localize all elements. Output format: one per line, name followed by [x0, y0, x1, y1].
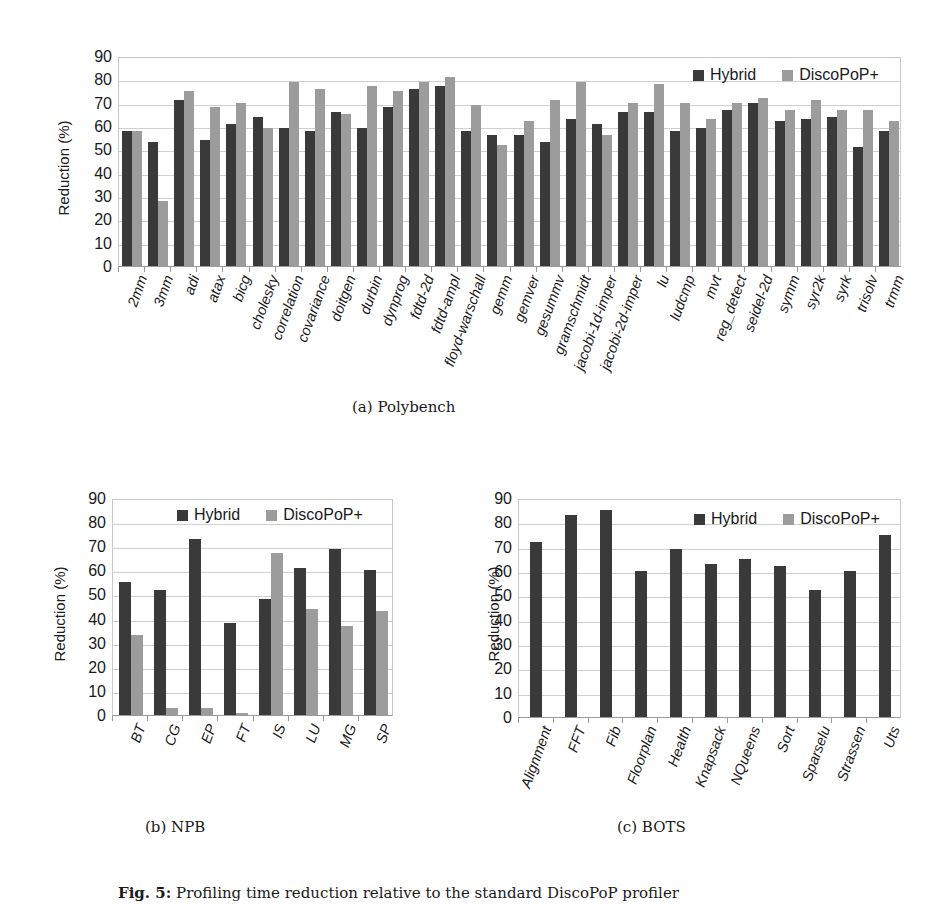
bar-hybrid-mg: [329, 549, 341, 715]
bar-hybrid-lu: [644, 112, 654, 266]
x-tick-label: EP: [198, 722, 220, 746]
bar-hybrid-fdtd-2d: [409, 89, 419, 266]
bar-discopop-durbin: [367, 86, 377, 266]
gridline: [113, 548, 392, 549]
bar-discopop-gramschmidt: [576, 82, 586, 266]
y-tick-label: 60: [82, 119, 112, 135]
bar-hybrid-lu: [294, 568, 306, 715]
x-tick-label: syrk: [830, 273, 854, 303]
legend-swatch-discopop: [783, 514, 794, 525]
bar-discopop-mg: [341, 626, 353, 715]
y-tick-label: 0: [482, 710, 512, 726]
bar-hybrid-health: [670, 549, 682, 717]
x-tick-mark: [849, 267, 850, 272]
legend-swatch-hybrid: [694, 514, 705, 525]
bar-discopop-adi: [184, 91, 194, 266]
bar-hybrid-fdtd-ampl: [435, 86, 445, 266]
bar-hybrid-cholesky: [253, 117, 263, 266]
bar-hybrid-bicg: [226, 124, 236, 266]
bar-hybrid-knapsack: [705, 564, 717, 717]
bar-discopop-fdtd-2d: [419, 82, 429, 266]
bar-hybrid-dynprog: [383, 107, 393, 266]
x-tick-label: Health: [664, 724, 693, 769]
y-tick-label: 30: [76, 636, 106, 652]
legend-label-discopop: DiscoPoP+: [283, 506, 363, 524]
x-tick-mark: [823, 267, 824, 272]
bar-hybrid-mvt: [696, 128, 706, 266]
bar-discopop-cholesky: [263, 128, 273, 266]
legend-swatch-hybrid: [693, 70, 704, 81]
x-tick-label: BT: [127, 722, 148, 745]
x-tick-mark: [718, 267, 719, 272]
x-tick-mark: [358, 716, 359, 721]
chart-polybench: Reduction (%) Hybrid DiscoPoP+ (a) Polyb…: [0, 0, 949, 430]
x-tick-mark: [875, 267, 876, 272]
gridline: [113, 669, 392, 670]
y-tick-label: 90: [82, 49, 112, 65]
figure-caption: Fig. 5: Profiling time reduction relativ…: [118, 884, 679, 902]
y-tick-label: 0: [82, 259, 112, 275]
bar-discopop-mvt: [706, 119, 716, 266]
y-tick-label: 80: [76, 515, 106, 531]
bar-hybrid-seidel-2d: [748, 103, 758, 266]
bar-hybrid-ep: [189, 539, 201, 715]
x-tick-label: Uts: [880, 724, 902, 750]
x-tick-mark: [182, 716, 183, 721]
x-tick-mark: [147, 716, 148, 721]
bar-hybrid-3mm: [148, 142, 158, 266]
bar-discopop-reg_detect: [732, 103, 742, 266]
gridline: [519, 573, 900, 574]
bar-hybrid-nqueens: [739, 559, 751, 717]
legend: Hybrid DiscoPoP+: [694, 510, 880, 528]
y-tick-label: 70: [482, 540, 512, 556]
x-tick-label: Floorplan: [624, 724, 660, 786]
bar-hybrid-covariance: [305, 131, 315, 266]
x-tick-mark: [588, 718, 589, 723]
x-tick-mark: [301, 267, 302, 272]
bar-hybrid-atax: [200, 140, 210, 266]
x-tick-label: trisolv: [853, 273, 881, 314]
y-tick-label: 20: [82, 212, 112, 228]
bar-hybrid-floorplan: [635, 571, 647, 717]
x-tick-mark: [562, 267, 563, 272]
y-tick-label: 50: [76, 587, 106, 603]
x-tick-mark: [222, 267, 223, 272]
bar-discopop-sp: [376, 611, 388, 715]
y-tick-label: 90: [482, 491, 512, 507]
x-tick-label: NQueens: [728, 724, 764, 787]
bar-hybrid-uts: [879, 535, 891, 718]
x-tick-label: bicg: [230, 273, 254, 303]
x-tick-mark: [666, 267, 667, 272]
x-tick-mark: [727, 718, 728, 723]
gridline: [113, 645, 392, 646]
bar-discopop-syr2k: [811, 100, 821, 266]
bar-hybrid-syr2k: [801, 119, 811, 266]
y-tick-label: 40: [82, 166, 112, 182]
bar-discopop-bicg: [236, 103, 246, 266]
gridline: [519, 670, 900, 671]
x-tick-mark: [588, 267, 589, 272]
x-tick-label: Knapsack: [691, 724, 728, 789]
x-tick-mark: [275, 267, 276, 272]
x-tick-label: atax: [204, 273, 228, 304]
bar-hybrid-sparselu: [809, 590, 821, 717]
x-tick-mark: [253, 716, 254, 721]
x-tick-label: mvt: [702, 273, 725, 300]
x-tick-mark: [353, 267, 354, 272]
x-tick-mark: [614, 267, 615, 272]
x-tick-mark: [379, 267, 380, 272]
x-tick-label: gemm: [487, 273, 516, 316]
y-tick-label: 10: [482, 686, 512, 702]
x-tick-label: Alignment: [518, 724, 555, 790]
x-tick-label: Strassen: [833, 724, 868, 783]
gridline: [113, 596, 392, 597]
bar-hybrid-trmm: [879, 131, 889, 266]
subcaption-npb: (b) NPB: [145, 818, 205, 836]
x-tick-mark: [217, 716, 218, 721]
x-tick-label: FT: [233, 722, 254, 744]
bar-discopop-trmm: [889, 121, 899, 266]
legend-label-hybrid: Hybrid: [194, 506, 240, 524]
legend: Hybrid DiscoPoP+: [177, 506, 363, 524]
bar-hybrid-sort: [774, 566, 786, 717]
gridline: [519, 695, 900, 696]
